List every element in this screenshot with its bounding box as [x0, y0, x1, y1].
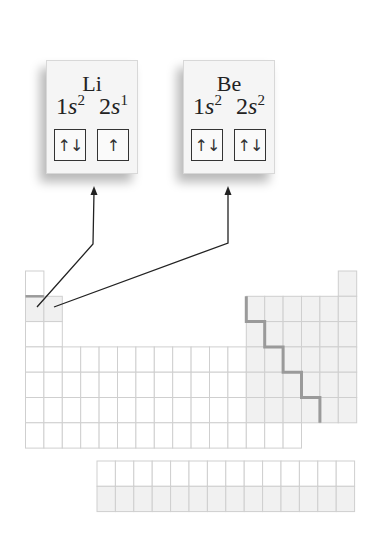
element-cell: [173, 398, 191, 423]
periodic-table-diagram: [0, 0, 374, 544]
f-block-cell: [281, 486, 299, 511]
element-cell: [44, 423, 62, 448]
element-cell: [338, 372, 356, 397]
element-cell: [302, 398, 320, 423]
element-cell: [265, 296, 283, 321]
f-block-cell: [299, 486, 317, 511]
element-cell: [44, 322, 62, 347]
element-cell: [99, 398, 117, 423]
element-cell: [26, 271, 44, 296]
element-cell: [302, 296, 320, 321]
element-cell: [136, 347, 154, 372]
f-block-cell: [171, 461, 189, 486]
element-cell: [210, 347, 228, 372]
element-cell: [265, 398, 283, 423]
f-block-cell: [244, 486, 262, 511]
li-pointer-line: [37, 192, 94, 307]
element-cell: [26, 423, 44, 448]
element-cell: [228, 423, 246, 448]
element-cell: [302, 372, 320, 397]
element-cell: [26, 347, 44, 372]
f-block-cell: [299, 461, 317, 486]
element-cell: [283, 296, 301, 321]
arrow-up-icon: [91, 186, 98, 195]
element-cell: [81, 423, 99, 448]
element-cell: [283, 347, 301, 372]
element-cell: [191, 423, 209, 448]
pointer-arrows: [37, 192, 228, 307]
element-cell: [246, 347, 264, 372]
element-cell: [265, 322, 283, 347]
element-cell: [228, 372, 246, 397]
element-cell: [338, 322, 356, 347]
element-cell: [154, 372, 172, 397]
element-cell: [118, 372, 136, 397]
f-block-cell: [263, 461, 281, 486]
f-block-cell: [189, 486, 207, 511]
element-cell: [26, 372, 44, 397]
be-pointer-line: [54, 192, 228, 307]
element-cell: [26, 398, 44, 423]
element-cell: [265, 372, 283, 397]
element-cell: [173, 372, 191, 397]
element-cell: [338, 296, 356, 321]
element-cell: [246, 296, 264, 321]
element-cell: [246, 322, 264, 347]
f-block-cell: [115, 461, 133, 486]
element-cell: [210, 372, 228, 397]
element-cell: [283, 322, 301, 347]
element-cell: [320, 347, 338, 372]
element-cell: [81, 372, 99, 397]
f-block-cell: [97, 461, 115, 486]
f-block-cell: [152, 486, 170, 511]
element-cell: [118, 398, 136, 423]
element-cell: [246, 398, 264, 423]
element-cell: [302, 347, 320, 372]
element-cell: [320, 296, 338, 321]
element-cell: [191, 372, 209, 397]
element-cell: [136, 398, 154, 423]
f-block-cell: [318, 461, 336, 486]
element-cell: [228, 398, 246, 423]
element-cell: [99, 347, 117, 372]
element-cell: [99, 423, 117, 448]
element-cell: [26, 296, 44, 321]
element-cell: [173, 347, 191, 372]
element-cell: [62, 347, 80, 372]
element-cell: [81, 398, 99, 423]
element-cell: [338, 398, 356, 423]
f-block-cell: [336, 486, 354, 511]
element-cell: [246, 423, 264, 448]
element-cell: [44, 398, 62, 423]
element-cell: [265, 423, 283, 448]
f-block-cell: [134, 486, 152, 511]
element-cell: [173, 423, 191, 448]
element-cell: [62, 423, 80, 448]
element-cell: [81, 347, 99, 372]
f-block-cell: [244, 461, 262, 486]
element-cell: [283, 423, 301, 448]
element-cell: [302, 322, 320, 347]
element-cell: [191, 398, 209, 423]
f-block-cell: [318, 486, 336, 511]
element-cell: [320, 372, 338, 397]
element-cell: [118, 423, 136, 448]
f-block-cell: [97, 486, 115, 511]
element-cell: [62, 372, 80, 397]
element-cell: [191, 347, 209, 372]
f-block-cell: [207, 486, 225, 511]
f-block-cell: [226, 486, 244, 511]
element-cell: [136, 372, 154, 397]
arrowheads: [91, 186, 232, 195]
element-cell: [338, 271, 356, 296]
f-block-cell: [171, 486, 189, 511]
element-cell: [320, 398, 338, 423]
element-cell: [26, 322, 44, 347]
f-block-cell: [189, 461, 207, 486]
element-cell: [338, 347, 356, 372]
element-cell: [154, 398, 172, 423]
element-cell: [118, 347, 136, 372]
f-block-cell: [115, 486, 133, 511]
f-block-cell: [263, 486, 281, 511]
element-cell: [228, 347, 246, 372]
